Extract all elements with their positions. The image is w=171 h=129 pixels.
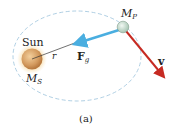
force-subscript: g [85,56,89,64]
radius-label: r [52,52,56,61]
figure-caption: (a) [79,114,93,124]
force-label: Fg [77,51,89,64]
planet-mass-subscript: P [132,13,137,21]
planet-mass-symbol: M [121,7,132,20]
gravity-force-arrow [84,30,119,41]
planet-icon [117,21,129,33]
velocity-arrow [126,31,159,71]
sun-label: Sun [22,37,44,48]
planet-mass-label: MP [121,8,137,21]
sun-mass-symbol: M [26,72,37,85]
velocity-label: v [158,56,164,67]
diagram-graphics [0,0,171,129]
sun-mass-label: MS [26,73,42,86]
orbit-diagram: Sun MS MP r Fg v (a) [0,0,171,129]
force-symbol: F [77,50,85,63]
sun-mass-subscript: S [37,78,42,86]
